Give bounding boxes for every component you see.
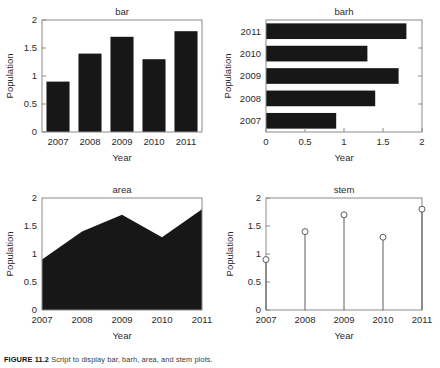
- y-tick-label: 1: [32, 70, 37, 81]
- x-axis-label: Year: [112, 330, 131, 341]
- area-chart: area00.511.5220072008200920102011YearPop…: [0, 182, 215, 357]
- y-tick-label: 1.5: [24, 220, 37, 231]
- x-tick-label: 1.5: [376, 136, 389, 147]
- x-tick-label: 2010: [143, 136, 164, 147]
- y-axis-label: Population: [224, 232, 235, 277]
- barh-2007: [266, 113, 336, 129]
- barh-2009: [266, 68, 399, 84]
- chart-title: bar: [115, 6, 129, 17]
- x-tick-label: 0: [263, 136, 268, 147]
- barh-chart: barh2007200820092010201100.511.52YearPop…: [222, 4, 437, 179]
- x-tick-label: 2011: [192, 314, 212, 325]
- figure-caption-label: FIGURE 11.2: [4, 355, 49, 364]
- chart-panel-area: area00.511.5220072008200920102011YearPop…: [0, 182, 215, 357]
- y-tick-label: 0.5: [248, 276, 261, 287]
- bar-2007: [46, 82, 69, 132]
- chart-panel-barh: barh2007200820092010201100.511.52YearPop…: [222, 4, 437, 179]
- x-tick-label: 0.5: [298, 136, 311, 147]
- chart-title: area: [112, 184, 132, 195]
- x-tick-label: 2: [419, 136, 424, 147]
- y-tick-label: 1.5: [248, 220, 261, 231]
- x-tick-label: 2011: [176, 136, 196, 147]
- x-tick-label: 2008: [79, 136, 100, 147]
- y-tick-label: 2: [32, 192, 37, 203]
- x-axis-label: Year: [334, 330, 353, 341]
- barh-2008: [266, 91, 375, 107]
- stem-marker-2009: [341, 212, 347, 218]
- x-tick-label: 2010: [151, 314, 172, 325]
- y-tick-label: 2008: [240, 93, 261, 104]
- x-axis-label: Year: [112, 152, 131, 163]
- y-axis-label: Population: [222, 54, 233, 99]
- chart-panel-bar: bar00.511.5220072008200920102011YearPopu…: [0, 4, 215, 179]
- y-tick-label: 2011: [241, 26, 261, 37]
- stem-chart: stem00.511.5220072008200920102011YearPop…: [222, 182, 437, 357]
- figure-sheet: bar00.511.5220072008200920102011YearPopu…: [0, 0, 440, 368]
- x-axis-label: Year: [334, 152, 353, 163]
- barh-plot-group: barh2007200820092010201100.511.52YearPop…: [222, 6, 425, 163]
- stem-marker-2011: [419, 206, 425, 212]
- area-series: [42, 209, 202, 310]
- y-tick-label: 0.5: [24, 276, 37, 287]
- y-axis-label: Population: [4, 54, 15, 99]
- x-tick-label: 2007: [255, 314, 276, 325]
- bar-chart: bar00.511.5220072008200920102011YearPopu…: [0, 4, 215, 179]
- bar-2010: [142, 59, 165, 132]
- x-tick-label: 2010: [372, 314, 393, 325]
- stem-marker-2007: [263, 257, 269, 263]
- x-tick-label: 1: [341, 136, 346, 147]
- bar-2011: [174, 31, 197, 132]
- stem-plot-group: stem00.511.5220072008200920102011YearPop…: [224, 184, 432, 341]
- y-axis-label: Population: [4, 232, 15, 277]
- stem-marker-2010: [380, 234, 386, 240]
- chart-title: barh: [334, 6, 353, 17]
- bar-plot-group: bar00.511.5220072008200920102011YearPopu…: [4, 6, 202, 163]
- stem-marker-2008: [302, 229, 308, 235]
- y-tick-label: 2: [32, 14, 37, 25]
- barh-2011: [266, 23, 406, 39]
- x-tick-label: 2009: [333, 314, 354, 325]
- x-tick-label: 2009: [111, 136, 132, 147]
- bar-2009: [110, 37, 133, 132]
- y-tick-label: 0.5: [24, 98, 37, 109]
- x-tick-label: 2007: [31, 314, 52, 325]
- y-tick-label: 0: [32, 126, 37, 137]
- chart-panel-stem: stem00.511.5220072008200920102011YearPop…: [222, 182, 437, 357]
- y-tick-label: 1.5: [24, 42, 37, 53]
- figure-caption-text: Script to display bar, barh, area, and s…: [51, 355, 213, 364]
- x-tick-label: 2009: [111, 314, 132, 325]
- y-tick-label: 1: [256, 248, 261, 259]
- area-plot-group: area00.511.5220072008200920102011YearPop…: [4, 184, 212, 341]
- bar-2008: [78, 54, 101, 132]
- y-tick-label: 2: [256, 192, 261, 203]
- x-tick-label: 2008: [71, 314, 92, 325]
- x-tick-label: 2011: [412, 314, 432, 325]
- chart-title: stem: [334, 184, 355, 195]
- y-tick-label: 2009: [240, 70, 261, 81]
- figure-caption: FIGURE 11.2 Script to display bar, barh,…: [4, 355, 434, 365]
- x-tick-label: 2008: [294, 314, 315, 325]
- y-tick-label: 2010: [240, 48, 261, 59]
- y-tick-label: 2007: [240, 115, 261, 126]
- x-tick-label: 2007: [47, 136, 68, 147]
- barh-2010: [266, 46, 367, 62]
- y-tick-label: 1: [32, 248, 37, 259]
